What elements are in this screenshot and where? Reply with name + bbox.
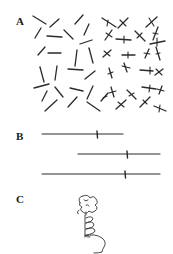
plain-segment bbox=[33, 16, 46, 24]
plain-segment bbox=[85, 71, 95, 79]
plain-segment bbox=[75, 50, 77, 66]
panel-c-drawing bbox=[77, 195, 105, 253]
crossed-segment-main bbox=[140, 70, 153, 71]
crossed-segment-cross bbox=[144, 53, 150, 54]
plain-segment bbox=[35, 28, 41, 38]
plain-segment bbox=[84, 24, 89, 35]
plain-segment bbox=[50, 19, 59, 27]
plain-segment bbox=[68, 97, 77, 107]
plain-segment bbox=[89, 48, 93, 63]
crossed-segment-cross bbox=[156, 53, 160, 54]
plain-segment bbox=[87, 102, 100, 111]
tick-mark bbox=[97, 131, 98, 138]
plain-segment bbox=[55, 87, 63, 97]
figure-canvas bbox=[0, 0, 173, 254]
crossed-segment-main bbox=[102, 18, 116, 27]
crossed-segment-main bbox=[135, 31, 145, 41]
plain-segment bbox=[68, 69, 83, 70]
plain-segment bbox=[40, 67, 44, 82]
crossed-segment-cross bbox=[159, 105, 160, 112]
panel-a-segment-field bbox=[33, 15, 166, 112]
plain-segment bbox=[42, 91, 47, 101]
plain-segment bbox=[38, 47, 45, 55]
crossed-segment-cross bbox=[149, 85, 150, 92]
plain-segment bbox=[70, 88, 83, 91]
plain-segment bbox=[80, 40, 92, 44]
plain-segment bbox=[34, 84, 49, 88]
tick-mark bbox=[125, 171, 126, 178]
plain-segment bbox=[55, 66, 57, 80]
plain-segment bbox=[47, 36, 62, 37]
panel-b-lines bbox=[42, 131, 160, 178]
plain-segment bbox=[75, 15, 83, 24]
crossed-segment-cross bbox=[149, 18, 154, 26]
plain-segment bbox=[45, 100, 57, 111]
plain-segment bbox=[64, 30, 73, 39]
tick-mark bbox=[127, 151, 128, 158]
plain-segment bbox=[87, 86, 93, 99]
crossed-segment-cross bbox=[153, 33, 158, 34]
